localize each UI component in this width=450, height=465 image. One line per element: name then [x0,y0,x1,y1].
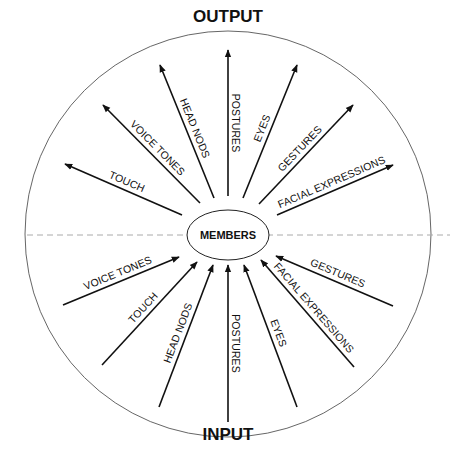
members-label: MEMBERS [200,229,256,241]
input-arrow-label: POSTURES [230,314,242,373]
output-arrow-label: GESTURES [275,123,324,174]
input-arrow-label: EYES [268,317,289,348]
output-arrow-label: VOICE TONES [128,118,188,178]
output-arrow-label: EYES [251,113,273,144]
output-title: OUTPUT [193,7,264,26]
output-arrow [65,164,182,215]
output-arrow [277,165,393,215]
input-title: INPUT [203,425,255,444]
communication-diagram: MEMBERS OUTPUT INPUT TOUCHVOICE TONESHEA… [0,0,450,465]
output-arrow-label: POSTURES [230,94,242,153]
input-arrow [159,265,213,407]
output-arrow [243,65,297,198]
output-arrow [160,65,214,198]
input-arrow-label: HEAD NODS [161,301,195,364]
input-arrow-label: GESTURES [309,256,368,290]
